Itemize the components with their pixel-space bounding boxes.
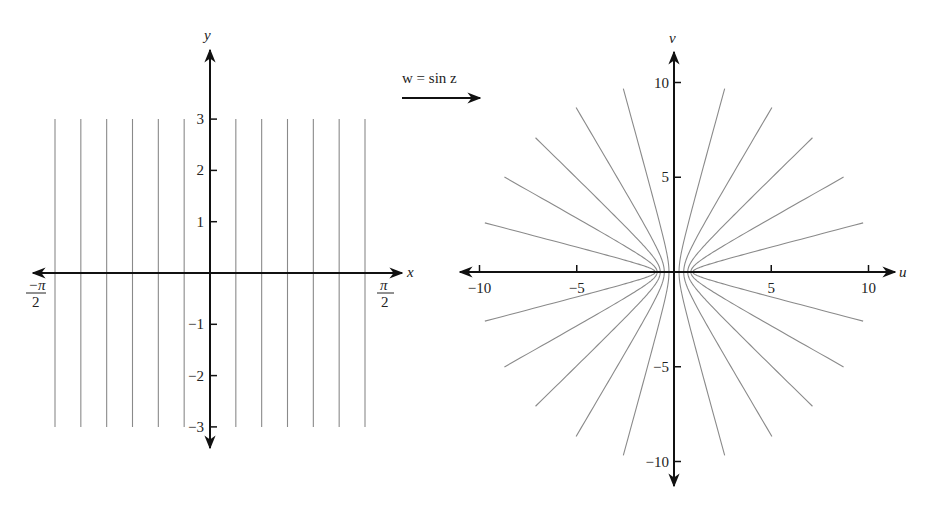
- svg-text:2: 2: [381, 294, 389, 310]
- svg-text:2: 2: [32, 294, 40, 310]
- v-tick-label: 10: [654, 75, 669, 91]
- y-tick-label: −3: [188, 419, 204, 435]
- u-tick-label: 5: [768, 280, 776, 296]
- svg-text:−π: −π: [28, 277, 46, 293]
- u-tick-label: −5: [569, 280, 585, 296]
- v-tick-label: 5: [662, 169, 670, 185]
- svg-text:π: π: [380, 277, 388, 293]
- u-axis-label: u: [899, 264, 907, 280]
- x-tick-pi-over-2: π 2: [377, 277, 394, 310]
- figure-canvas: 321−1−2−3 y x −π 2 π 2 w = sin z −10−551…: [0, 0, 929, 508]
- mapping-label: w = sin z: [402, 70, 457, 86]
- mapping-arrow: w = sin z: [402, 70, 480, 98]
- y-tick-label: 3: [197, 111, 205, 127]
- u-tick-label: −10: [468, 280, 491, 296]
- v-axis-label: v: [669, 30, 676, 46]
- z-plane-plot: 321−1−2−3 y x −π 2 π 2: [26, 27, 414, 448]
- x-tick-neg-pi-over-2: −π 2: [26, 277, 46, 310]
- y-tick-label: 1: [197, 214, 205, 230]
- y-tick-label: −1: [188, 316, 204, 332]
- y-tick-label: −2: [188, 368, 204, 384]
- x-axis-label: x: [406, 264, 414, 280]
- y-axis-label: y: [202, 27, 211, 43]
- u-ticks: −10−5510: [468, 265, 876, 296]
- y-tick-label: 2: [197, 162, 205, 178]
- v-tick-label: −5: [653, 359, 669, 375]
- v-tick-label: −10: [646, 454, 669, 470]
- u-tick-label: 10: [861, 280, 876, 296]
- w-plane-plot: −10−5510 105−5−10 v u: [460, 30, 907, 486]
